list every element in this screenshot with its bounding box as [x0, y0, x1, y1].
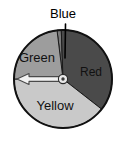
spinner-figure: Green Red Yellow Blue	[0, 0, 120, 142]
spinner-diagram: Green Red Yellow Blue	[0, 0, 120, 142]
sector-label-green: Green	[19, 50, 55, 65]
sector-label-red: Red	[80, 65, 102, 79]
callout-label-blue: Blue	[50, 6, 76, 21]
center-hub-inner	[61, 77, 64, 80]
sector-label-yellow: Yellow	[36, 98, 74, 113]
center-hub	[58, 74, 67, 83]
blue-leader-line	[65, 24, 66, 58]
